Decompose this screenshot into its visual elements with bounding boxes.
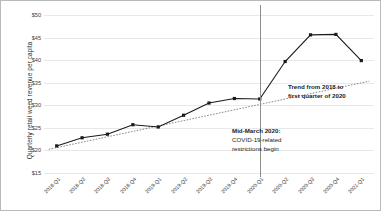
data-point-marker: [80, 136, 83, 139]
data-point-marker: [207, 101, 210, 104]
trend-annotation-line-1: Trend from 2018 to: [288, 83, 380, 92]
x-axis-tick-label: 2021-Q1: [347, 176, 366, 195]
covid-annotation: Mid-March 2020: COVID-19-related restric…: [232, 127, 282, 154]
x-axis-tick-label: 2020-Q1: [245, 176, 264, 195]
x-axis-tick-label: 2018-Q4: [119, 176, 138, 195]
covid-annotation-line-1: COVID-19-related: [232, 136, 282, 145]
y-axis-tick-label: $30: [32, 102, 41, 108]
data-point-marker: [157, 125, 160, 128]
y-axis-tick-label: $40: [32, 57, 41, 63]
y-axis-title: Quarterly retail weed revenue per capita: [26, 21, 33, 181]
x-axis-tick-label: 2019-Q4: [220, 176, 239, 195]
data-point-marker: [334, 33, 337, 36]
data-point-marker: [360, 59, 363, 62]
data-point-marker: [309, 33, 312, 36]
gridline: [44, 173, 374, 174]
data-point-marker: [182, 114, 185, 117]
y-axis-tick-label: $25: [32, 125, 41, 131]
x-axis-tick-label: 2018-Q1: [42, 176, 61, 195]
x-axis-tick-label: 2020-Q4: [322, 176, 341, 195]
data-point-marker: [131, 123, 134, 126]
covid-annotation-line-2: restrictions begin: [232, 145, 282, 154]
y-axis-tick-label: $20: [32, 147, 41, 153]
x-axis-tick-label: 2020-Q2: [271, 176, 290, 195]
x-axis-tick-label: 2020-Q3: [296, 176, 315, 195]
y-axis-tick-label: $50: [32, 12, 41, 18]
trend-annotation-line-2: first quarter of 2020: [288, 92, 380, 101]
y-axis-tick-label: $15: [32, 170, 41, 176]
data-point-marker: [284, 60, 287, 63]
y-axis-tick-label: $35: [32, 80, 41, 86]
x-axis-tick-label: 2018-Q3: [93, 176, 112, 195]
x-axis-tick-label: 2018-Q2: [68, 176, 87, 195]
x-axis-tick-label: 2019-Q2: [169, 176, 188, 195]
data-point-marker: [233, 97, 236, 100]
data-point-marker: [106, 133, 109, 136]
x-axis-tick-label: 2019-Q1: [144, 176, 163, 195]
x-axis-tick-label: 2019-Q3: [195, 176, 214, 195]
covid-annotation-heading: Mid-March 2020:: [232, 127, 282, 136]
chart-figure: Quarterly retail weed revenue per capita…: [0, 0, 381, 211]
y-axis-tick-label: $45: [32, 35, 41, 41]
data-point-marker: [55, 144, 58, 147]
trend-annotation: Trend from 2018 to first quarter of 2020: [288, 83, 380, 101]
